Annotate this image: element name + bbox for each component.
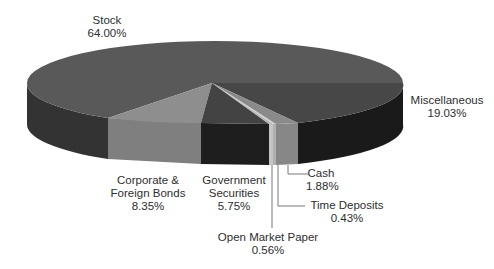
pie-chart: [0, 0, 494, 269]
label-gov-pct: 5.75%: [199, 200, 269, 213]
label-corp-line1: Corporate &: [108, 174, 188, 187]
label-omp-pct: 0.56%: [213, 244, 323, 257]
pie-top-faces: [27, 41, 403, 124]
slice-side-government-securities: [201, 123, 269, 165]
label-stock-pct: 64.00%: [86, 27, 128, 40]
label-miscellaneous: Miscellaneous 19.03%: [402, 94, 492, 120]
label-misc-name: Miscellaneous: [402, 94, 492, 107]
label-time-deposits: Time Deposits 0.43%: [307, 199, 387, 225]
label-gov-line1: Government: [199, 174, 269, 187]
label-misc-pct: 19.03%: [402, 107, 492, 120]
label-government-securities: Government Securities 5.75%: [199, 174, 269, 213]
label-corp-pct: 8.35%: [108, 200, 188, 213]
label-stock: Stock 64.00%: [86, 14, 128, 40]
leader-line-cash: [288, 165, 308, 174]
label-cash-name: Cash: [306, 167, 336, 180]
label-corporate-bonds: Corporate & Foreign Bonds 8.35%: [108, 174, 188, 213]
label-time-name: Time Deposits: [307, 199, 387, 212]
label-stock-name: Stock: [86, 14, 128, 27]
label-cash: Cash 1.88%: [306, 167, 336, 193]
label-open-market-paper: Open Market Paper 0.56%: [213, 231, 323, 257]
label-gov-line2: Securities: [199, 187, 269, 200]
label-corp-line2: Foreign Bonds: [108, 187, 188, 200]
slice-side-corporate-bonds: [108, 118, 201, 164]
slice-side-cash: [276, 123, 298, 165]
label-cash-pct: 1.88%: [306, 180, 336, 193]
label-time-pct: 0.43%: [307, 212, 387, 225]
slice-side-time-deposits: [273, 124, 276, 165]
slice-side-open-market-paper: [269, 124, 273, 165]
leader-line-time-deposits: [278, 165, 305, 206]
leader-lines: [272, 165, 308, 228]
label-omp-name: Open Market Paper: [213, 231, 323, 244]
